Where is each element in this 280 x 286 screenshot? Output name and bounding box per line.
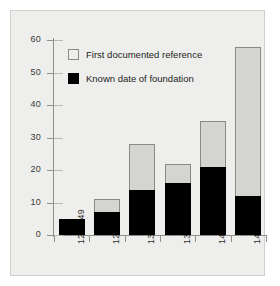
y-axis-tick <box>47 170 54 171</box>
y-axis-tick <box>47 73 54 74</box>
y-axis-gridline <box>54 235 63 236</box>
bar-group <box>129 144 155 235</box>
bar-segment-known-date-of-foundation <box>94 212 120 235</box>
x-axis-tick <box>54 236 55 242</box>
legend-label-first-documented-reference: First documented reference <box>86 49 202 60</box>
bar-group <box>59 219 85 235</box>
legend-swatch-light-icon <box>68 49 79 60</box>
x-axis-tick <box>266 236 267 242</box>
y-axis-tick <box>47 138 54 139</box>
bar-segment-known-date-of-foundation <box>59 219 85 235</box>
y-axis-tick-label: 20 <box>19 165 41 174</box>
bar-group <box>235 47 261 236</box>
y-axis-tick-label: 60 <box>19 35 41 44</box>
legend-label-known-date-of-foundation: Known date of foundation <box>86 73 194 84</box>
y-axis-tick <box>47 105 54 106</box>
legend-item-known-date-of-foundation: Known date of foundation <box>68 73 238 84</box>
y-axis-tick-label: 10 <box>19 198 41 207</box>
bar-group <box>94 199 120 235</box>
bar-segment-known-date-of-foundation <box>235 196 261 235</box>
stacked-bar-chart: 6050403020100 1240-491250-591300-491350-… <box>0 0 280 286</box>
x-axis-tick <box>89 236 90 242</box>
y-axis-tick-label: 0 <box>19 230 41 239</box>
bar-segment-known-date-of-foundation <box>129 190 155 236</box>
legend-item-first-documented-reference: First documented reference <box>68 49 238 60</box>
x-axis-tick <box>160 236 161 242</box>
legend-swatch-dark-icon <box>68 73 79 84</box>
x-axis-tick <box>231 236 232 242</box>
y-axis-tick-label: 50 <box>19 68 41 77</box>
bar-segment-known-date-of-foundation <box>200 167 226 235</box>
bar-group <box>165 164 191 236</box>
y-axis-tick <box>47 203 54 204</box>
x-axis-tick <box>125 236 126 242</box>
x-axis-tick <box>195 236 196 242</box>
y-axis-tick <box>47 40 54 41</box>
bar-group <box>200 121 226 235</box>
plot-frame: 6050403020100 1240-491250-591300-491350-… <box>10 10 265 276</box>
bar-segment-known-date-of-foundation <box>165 183 191 235</box>
chart-legend: First documented reference Known date of… <box>68 49 238 97</box>
y-axis-tick <box>47 235 54 236</box>
y-axis-tick-label: 40 <box>19 100 41 109</box>
y-axis-tick-label: 30 <box>19 133 41 142</box>
